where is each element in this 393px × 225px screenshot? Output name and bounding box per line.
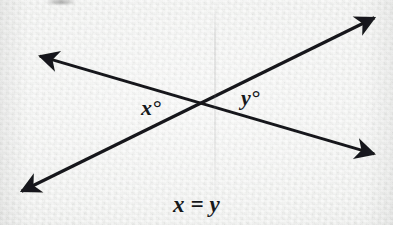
- rising-line: [22, 18, 375, 191]
- angle-label-x: x°: [141, 97, 161, 119]
- vertical-angles-figure: x° y° x = y: [0, 0, 393, 225]
- figure-caption-equation: x = y: [0, 193, 393, 216]
- falling-line: [40, 56, 374, 154]
- angle-label-y: y°: [241, 87, 260, 109]
